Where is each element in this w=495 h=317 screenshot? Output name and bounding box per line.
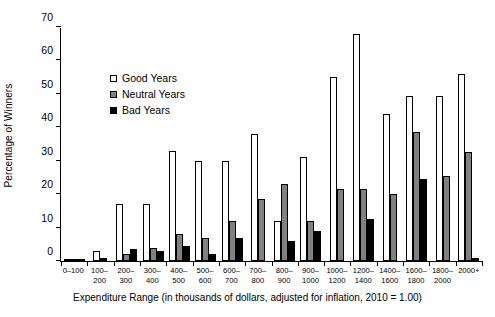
bar-good <box>222 161 229 261</box>
bar-good <box>458 74 465 261</box>
bar-neutral <box>150 248 157 261</box>
bar-neutral <box>413 132 420 261</box>
bar-bad <box>183 246 190 261</box>
y-axis-tick-label: 10 <box>41 212 53 223</box>
bar-group <box>272 28 298 261</box>
bar-bad <box>472 258 479 261</box>
x-axis-tick-label: 300– 400 <box>139 266 165 292</box>
bar-group <box>298 28 324 261</box>
bar-good <box>93 251 100 261</box>
bar-neutral <box>123 254 130 261</box>
x-axis-tick-label: 800– 900 <box>271 266 297 292</box>
bar-group <box>219 28 245 261</box>
bar-good <box>330 77 337 261</box>
bar-bad <box>157 251 164 261</box>
legend-item: Good Years <box>110 72 185 84</box>
y-axis-tick <box>56 26 61 27</box>
bar-good <box>383 114 390 261</box>
x-axis-tick-label: 1000– 1200 <box>324 266 350 292</box>
x-axis-tick-label: 2000+ <box>456 266 482 292</box>
legend-label: Good Years <box>122 72 177 84</box>
legend-label: Bad Years <box>122 104 170 116</box>
x-axis-tick-label: 200– 300 <box>113 266 139 292</box>
y-axis-title-text: Percentage of Winners <box>4 83 15 187</box>
chart-legend: Good YearsNeutral YearsBad Years <box>110 72 185 116</box>
y-axis-title: Percentage of Winners <box>0 0 18 270</box>
bar-good <box>195 161 202 261</box>
x-axis-title: Expenditure Range (in thousands of dolla… <box>0 292 495 303</box>
x-axis-tick <box>482 261 483 266</box>
bar-neutral <box>360 189 367 261</box>
x-axis-tick-label: 100– 200 <box>86 266 112 292</box>
bar-groups <box>61 28 482 261</box>
bar-chart: Percentage of Winners 010203040506070 0–… <box>0 0 495 317</box>
y-axis-tick-label: 40 <box>41 112 53 123</box>
bar-good <box>116 204 123 261</box>
bar-neutral <box>176 234 183 261</box>
bar-good <box>169 151 176 261</box>
x-axis-tick-label: 400– 500 <box>166 266 192 292</box>
x-axis-tick-label: 900– 1000 <box>297 266 323 292</box>
bar-group <box>456 28 482 261</box>
bar-bad <box>420 179 427 261</box>
bar-group <box>245 28 271 261</box>
x-axis-tick-label: 0–100 <box>60 266 86 292</box>
bar-good <box>143 204 150 261</box>
x-axis-tick-label: 1600– 1800 <box>403 266 429 292</box>
bar-group <box>114 28 140 261</box>
bar-good <box>64 259 71 261</box>
y-axis-tick-label: 0 <box>47 246 53 257</box>
bar-group <box>193 28 219 261</box>
bar-neutral <box>465 152 472 261</box>
bar-bad <box>367 219 374 261</box>
plot-area: 010203040506070 <box>60 28 482 262</box>
bar-bad <box>236 238 243 261</box>
legend-swatch-bad <box>110 107 117 114</box>
bar-group <box>61 28 87 261</box>
y-axis-tick-label: 20 <box>41 179 53 190</box>
bar-good <box>406 96 413 261</box>
bar-group <box>350 28 376 261</box>
bar-good <box>251 134 258 261</box>
x-axis-tick-label: 600– 700 <box>218 266 244 292</box>
x-axis-tick-label: 1400– 1600 <box>377 266 403 292</box>
bar-group <box>429 28 455 261</box>
bar-bad <box>314 231 321 261</box>
legend-item: Neutral Years <box>110 88 185 100</box>
bar-group <box>324 28 350 261</box>
y-axis-tick-label: 50 <box>41 79 53 90</box>
x-axis-tick-label: 500– 600 <box>192 266 218 292</box>
bar-good <box>274 221 281 261</box>
bar-good <box>300 157 307 261</box>
legend-swatch-neutral <box>110 91 117 98</box>
bar-good <box>436 96 443 261</box>
x-axis-tick-label: 1800– 2000 <box>429 266 455 292</box>
bar-neutral <box>337 189 344 261</box>
bar-group <box>403 28 429 261</box>
y-axis-tick-label: 70 <box>41 12 53 23</box>
legend-swatch-good <box>110 75 117 82</box>
bar-neutral <box>229 221 236 261</box>
x-axis-tick-label: 700– 800 <box>245 266 271 292</box>
bar-neutral <box>307 221 314 261</box>
bar-bad <box>130 249 137 261</box>
bar-neutral <box>71 259 78 261</box>
bar-bad <box>100 258 107 261</box>
bar-group <box>377 28 403 261</box>
bar-bad <box>288 241 295 261</box>
x-axis-title-text: Expenditure Range (in thousands of dolla… <box>73 292 422 303</box>
bar-group <box>140 28 166 261</box>
bar-neutral <box>202 238 209 261</box>
y-axis-tick-label: 60 <box>41 45 53 56</box>
bar-neutral <box>390 194 397 261</box>
x-axis-tick-label: 1200– 1400 <box>350 266 376 292</box>
bar-good <box>353 34 360 261</box>
bar-neutral <box>443 176 450 261</box>
bar-group <box>166 28 192 261</box>
bar-neutral <box>281 184 288 261</box>
x-axis-tick-labels: 0–100100– 200200– 300300– 400400– 500500… <box>60 266 482 292</box>
legend-label: Neutral Years <box>122 88 185 100</box>
bar-bad <box>78 259 85 261</box>
bar-bad <box>209 254 216 261</box>
legend-item: Bad Years <box>110 104 185 116</box>
